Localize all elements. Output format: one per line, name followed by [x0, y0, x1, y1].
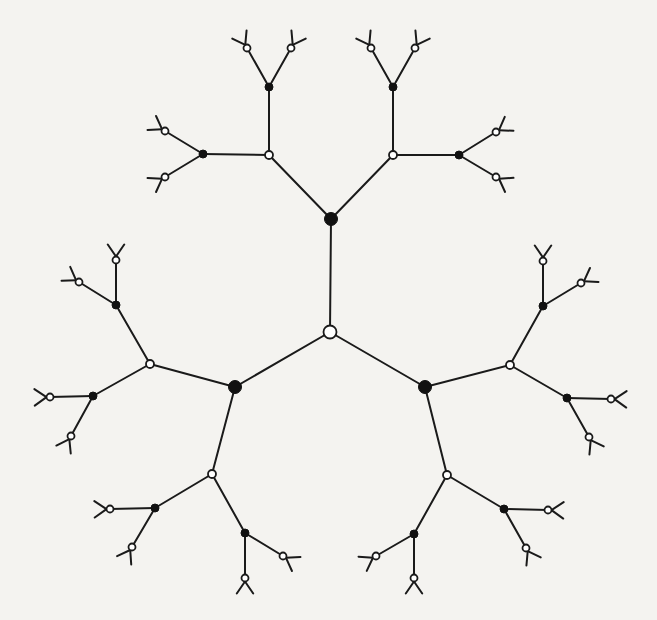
tree-edge — [414, 475, 447, 534]
tree-edge — [425, 365, 510, 387]
filled-node — [199, 150, 207, 158]
leaf-stub — [543, 246, 551, 258]
tree-edge — [447, 475, 504, 509]
tree-edge — [371, 48, 393, 87]
leaf-stub — [69, 439, 70, 453]
leaf-stub — [614, 391, 626, 399]
open-node — [162, 128, 169, 135]
leaf-stub — [614, 399, 626, 407]
open-node — [47, 394, 54, 401]
leaf-stub — [286, 557, 300, 558]
filled-node — [229, 381, 242, 394]
filled-node — [455, 151, 463, 159]
open-node — [545, 507, 552, 514]
tree-edge — [330, 219, 331, 332]
leaf-stub — [528, 551, 541, 557]
leaf-stub — [499, 117, 505, 130]
filled-node — [500, 505, 508, 513]
leaf-stub — [94, 501, 106, 509]
filled-node — [325, 213, 338, 226]
tree-edge — [71, 396, 93, 436]
tree-edge — [269, 48, 291, 87]
tree-edge — [50, 396, 93, 397]
tree-edge — [155, 474, 212, 508]
tree-edge — [150, 364, 235, 387]
leaf-stub — [526, 551, 527, 565]
tree-edge — [459, 155, 496, 177]
open-node — [586, 434, 593, 441]
tree-edge — [203, 154, 269, 155]
tree-edge — [247, 48, 269, 87]
tree-diagram — [0, 0, 657, 620]
filled-node — [539, 302, 547, 310]
open-node — [578, 280, 585, 287]
leaf-stub — [584, 268, 590, 281]
leaf-stub — [34, 389, 46, 397]
filled-node — [112, 301, 120, 309]
open-node — [280, 553, 287, 560]
open-node — [244, 45, 251, 52]
leaf-stub — [62, 280, 76, 281]
leaf-stub — [589, 440, 590, 454]
tree-edge — [504, 509, 548, 510]
tree-edge — [425, 387, 447, 475]
tree-edge — [165, 154, 203, 177]
tree-edge — [269, 155, 331, 219]
filled-node — [563, 394, 571, 402]
open-node — [506, 361, 514, 369]
tree-edge — [504, 509, 526, 548]
open-node — [288, 45, 295, 52]
tree-edge — [331, 155, 393, 219]
tree-edge — [510, 365, 567, 398]
leaf-stub — [70, 267, 76, 280]
open-node — [129, 544, 136, 551]
leaf-stub — [56, 439, 69, 446]
tree-edge — [212, 474, 245, 533]
open-node — [608, 396, 615, 403]
leaf-stub — [108, 245, 116, 257]
leaf-stub — [414, 582, 422, 594]
leaf-stub — [245, 582, 253, 594]
tree-edge — [376, 534, 414, 556]
tree-edge — [459, 132, 496, 155]
open-node — [411, 575, 418, 582]
tree-edge — [330, 332, 425, 387]
leaf-stub — [232, 39, 245, 45]
leaf-stub — [415, 31, 416, 45]
filled-node — [410, 530, 418, 538]
leaf-stub — [116, 245, 124, 257]
leaf-stub — [499, 179, 505, 192]
tree-edge — [93, 364, 150, 396]
open-node — [208, 470, 216, 478]
tree-svg — [0, 0, 657, 620]
open-node — [540, 258, 547, 265]
open-node — [242, 575, 249, 582]
tree-edge — [132, 508, 155, 547]
tree-edge — [510, 306, 543, 365]
open-node — [76, 279, 83, 286]
leaf-stub — [367, 558, 373, 571]
leaf-stub — [591, 440, 604, 446]
tree-edge — [567, 398, 589, 437]
open-node — [523, 545, 530, 552]
leaf-stub — [551, 502, 563, 510]
leaf-stub — [369, 31, 370, 45]
open-node — [389, 151, 397, 159]
open-node — [162, 174, 169, 181]
open-node — [324, 326, 337, 339]
leaf-stub — [148, 178, 162, 179]
leaf-stub — [356, 39, 369, 45]
leaf-stub — [359, 557, 373, 558]
leaf-stub — [156, 116, 162, 129]
tree-edge — [110, 508, 155, 509]
tree-edge — [212, 387, 235, 474]
leaf-stub — [417, 39, 430, 45]
filled-node — [89, 392, 97, 400]
leaf-stub — [535, 246, 543, 258]
open-node — [265, 151, 273, 159]
filled-node — [389, 83, 397, 91]
open-node — [443, 471, 451, 479]
leaf-stub — [117, 550, 130, 556]
leaf-stub — [551, 510, 563, 518]
tree-edge — [235, 332, 330, 387]
